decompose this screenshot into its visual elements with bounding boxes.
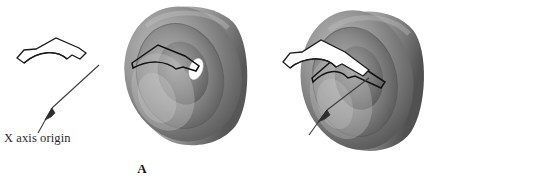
panel-b: X axis origin B [269, 0, 538, 180]
panel-a: X axis origin A [0, 0, 269, 180]
wheel-solid-b [290, 1, 425, 158]
x-axis-origin-leader-a [38, 65, 99, 133]
panel-b-graphics [269, 0, 538, 180]
leader-arrowhead-a [45, 108, 55, 120]
figure-root: X axis origin A [0, 0, 538, 180]
x-axis-origin-label-a: X axis origin [4, 131, 71, 146]
panel-a-graphics [0, 0, 269, 180]
wheel-solid-a [109, 0, 256, 155]
panel-label-a: A [122, 161, 162, 177]
sweep-profile-outline-a [17, 38, 86, 63]
